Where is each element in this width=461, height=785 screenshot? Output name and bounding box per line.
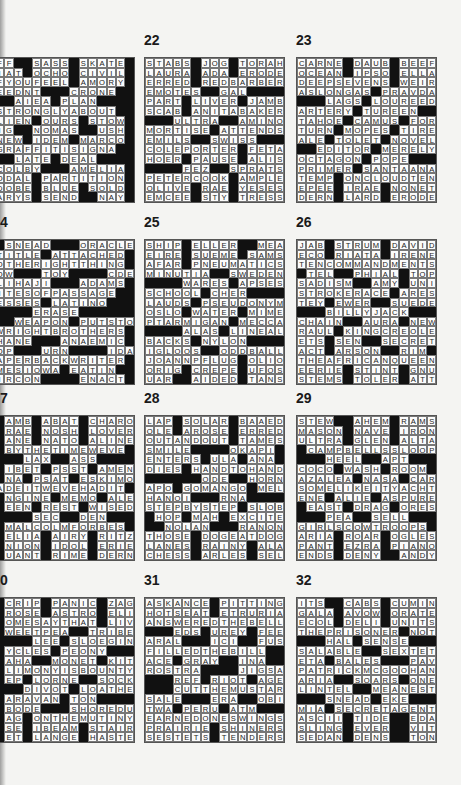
- grid-cell: A: [191, 374, 200, 384]
- grid-cell: I: [334, 665, 343, 675]
- grid-cell: O: [88, 704, 97, 714]
- grid-cell: O: [173, 493, 182, 503]
- black-square: [316, 512, 325, 522]
- black-square: [88, 346, 97, 356]
- grid-cell: P: [257, 445, 266, 455]
- grid-cell: S: [60, 426, 69, 436]
- grid-cell: B: [51, 416, 60, 426]
- grid-cell: I: [427, 278, 436, 288]
- grid-cell: R: [399, 608, 408, 618]
- grid-cell: T: [60, 684, 69, 694]
- grid-cell: E: [125, 541, 134, 551]
- grid-cell: A: [390, 474, 399, 484]
- grid-cell: E: [210, 259, 219, 269]
- grid-cell: S: [334, 374, 343, 384]
- grid-cell: M: [97, 336, 106, 346]
- grid-cell: N: [69, 656, 78, 666]
- grid-cell: T: [32, 87, 41, 97]
- black-square: [390, 288, 399, 298]
- grid-cell: T: [97, 317, 106, 327]
- grid-cell: E: [343, 336, 352, 346]
- grid-cell: O: [201, 474, 210, 484]
- grid-cell: E: [23, 426, 32, 436]
- grid-cell: H: [69, 617, 78, 627]
- grid-cell: S: [334, 278, 343, 288]
- grid-cell: T: [116, 374, 125, 384]
- grid-cell: S: [164, 665, 173, 675]
- grid-cell: R: [247, 77, 256, 87]
- grid-cell: I: [353, 68, 362, 78]
- grid-cell: O: [41, 522, 50, 532]
- grid-cell: R: [238, 522, 247, 532]
- grid-cell: A: [210, 317, 219, 327]
- grid-cell: C: [316, 464, 325, 474]
- grid-cell: E: [51, 483, 60, 493]
- black-square: [353, 474, 362, 484]
- grid-cell: E: [14, 288, 23, 298]
- grid-cell: P: [164, 416, 173, 426]
- grid-cell: T: [306, 374, 315, 384]
- grid-cell: A: [334, 435, 343, 445]
- black-square: [219, 164, 228, 174]
- black-square: [390, 77, 399, 87]
- grid-cell: D: [210, 617, 219, 627]
- grid-cell: O: [418, 627, 427, 637]
- black-square: [14, 269, 23, 279]
- grid-cell: O: [306, 464, 315, 474]
- grid-cell: A: [145, 656, 154, 666]
- grid-cell: D: [418, 298, 427, 308]
- grid-cell: P: [4, 346, 13, 356]
- grid-cell: E: [418, 502, 427, 512]
- grid-cell: A: [381, 454, 390, 464]
- grid-cell: N: [14, 336, 23, 346]
- grid-cell: R: [316, 522, 325, 532]
- grid-cell: C: [88, 598, 97, 608]
- grid-cell: S: [334, 336, 343, 346]
- grid-cell: J: [371, 307, 380, 317]
- grid-cell: E: [297, 336, 306, 346]
- grid-cell: V: [32, 694, 41, 704]
- grid-cell: R: [201, 278, 210, 288]
- grid-cell: S: [275, 374, 284, 384]
- grid-cell: Y: [390, 483, 399, 493]
- grid-cell: N: [409, 317, 418, 327]
- black-square: [182, 464, 191, 474]
- grid-cell: L: [219, 454, 228, 464]
- grid-cell: H: [229, 617, 238, 627]
- grid-cell: S: [32, 617, 41, 627]
- grid-cell: U: [219, 259, 228, 269]
- grid-cell: R: [399, 96, 408, 106]
- grid-cell: N: [371, 346, 380, 356]
- grid-cell: L: [173, 135, 182, 145]
- grid-cell: H: [210, 684, 219, 694]
- grid-cell: O: [173, 522, 182, 532]
- grid-cell: C: [316, 713, 325, 723]
- grid-cell: D: [219, 464, 228, 474]
- grid-cell: G: [381, 502, 390, 512]
- grid-cell: S: [60, 464, 69, 474]
- black-square: [23, 474, 32, 484]
- grid-cell: H: [32, 445, 41, 455]
- black-square: [418, 454, 427, 464]
- black-square: [23, 723, 32, 733]
- grid-cell: A: [182, 426, 191, 436]
- grid-cell: R: [164, 250, 173, 260]
- grid-cell: E: [41, 77, 50, 87]
- black-square: [41, 531, 50, 541]
- grid-cell: N: [247, 656, 256, 666]
- black-square: [219, 704, 228, 714]
- grid-cell: L: [173, 646, 182, 656]
- black-square: [191, 636, 200, 646]
- grid-cell: A: [371, 164, 380, 174]
- grid-cell: D: [343, 617, 352, 627]
- grid-cell: G: [51, 259, 60, 269]
- grid-cell: A: [51, 531, 60, 541]
- grid-cell: E: [334, 164, 343, 174]
- grid-cell: A: [4, 656, 13, 666]
- grid-cell: S: [69, 636, 78, 646]
- grid-cell: L: [23, 173, 32, 183]
- grid-cell: L: [325, 269, 334, 279]
- grid-cell: S: [247, 135, 256, 145]
- grid-cell: U: [23, 77, 32, 87]
- puzzle-number: 25: [144, 214, 160, 230]
